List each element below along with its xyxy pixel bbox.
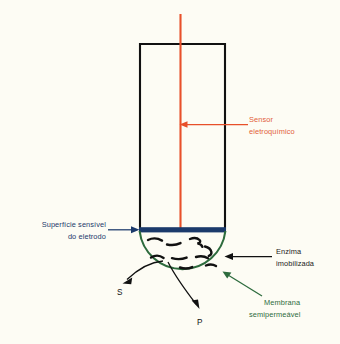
substrate-label: S — [117, 288, 123, 297]
membrane-label-line1: Membrana — [264, 298, 301, 307]
diagram-background — [0, 0, 340, 344]
enzyme-label-line2: imobilizada — [276, 259, 315, 268]
enzyme-label-line1: Enzima — [276, 247, 302, 256]
electrode-surface-label-line1: Superfície sensível — [42, 220, 107, 229]
electrode-surface-label-line2: do eletrodo — [68, 232, 106, 241]
biosensor-diagram: Sensor eletroquímico Superfície sensível… — [0, 0, 340, 344]
sensor-label-line1: Sensor — [249, 115, 273, 124]
sensor-label-line2: eletroquímico — [249, 127, 295, 136]
product-label: P — [197, 318, 203, 327]
electrode-sensitive-surface-band — [139, 227, 226, 232]
membrane-label-line2: semipermeável — [249, 310, 301, 319]
